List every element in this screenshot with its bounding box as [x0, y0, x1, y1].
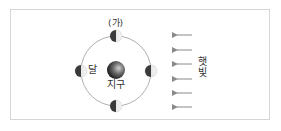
moon-right-icon [145, 65, 157, 77]
moon-label: 달 [88, 65, 97, 75]
moon-left-icon [75, 65, 87, 77]
sunlight-label: 햇빛 [197, 56, 207, 78]
position-label-ga: (가) [108, 19, 123, 28]
moon-orbit-diagram [0, 0, 281, 131]
moon-bottom-icon [110, 100, 122, 112]
sunlight-arrows [177, 35, 192, 107]
earth-label: 지구 [107, 80, 125, 90]
earth-icon [107, 61, 125, 79]
moon-top-icon [110, 30, 122, 42]
